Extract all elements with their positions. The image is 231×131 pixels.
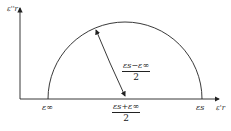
radius-label: εs−ε∞ 2 [122,62,150,82]
y-axis-label: ε''r [7,6,18,13]
center-label-denominator: 2 [112,113,140,123]
center-label: εs+ε∞ 2 [112,103,140,123]
radius-label-denominator: 2 [122,72,150,82]
radius-arrow [96,30,110,63]
center-label-numerator: εs+ε∞ [112,103,140,113]
radius-label-numerator: εs−ε∞ [122,62,150,72]
tick-eps-inf: ε∞ [42,104,53,112]
tick-eps-s: εs [196,104,204,112]
x-axis-label: ε'r [216,105,225,112]
